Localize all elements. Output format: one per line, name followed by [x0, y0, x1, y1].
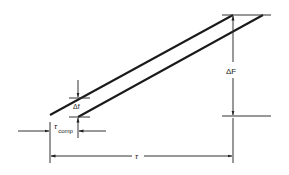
tau-label: τ	[135, 152, 139, 161]
tau-comp-label: τ comp	[54, 122, 74, 134]
upper-ramp-line	[50, 15, 233, 115]
lower-ramp-line	[78, 15, 263, 117]
timing-diagram: ΔF Δf τ comp τ	[0, 0, 289, 175]
delta-f-small-label: Δf	[73, 103, 80, 110]
tau-comp-subscript: comp	[58, 128, 73, 134]
diagram-canvas: ΔF Δf τ comp τ	[0, 0, 289, 175]
delta-f-large-label: ΔF	[226, 67, 236, 76]
